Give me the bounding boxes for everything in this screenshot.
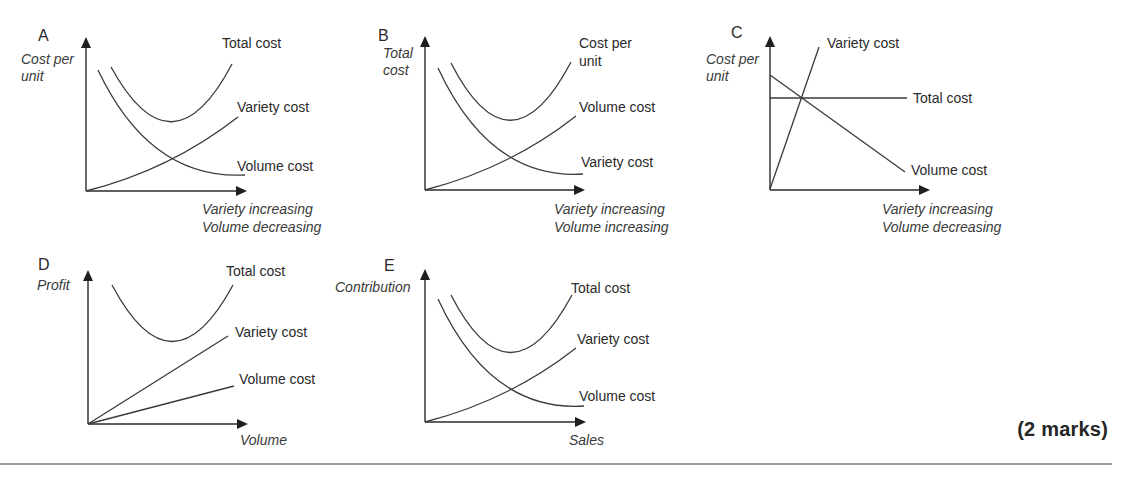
series-label-volume-e: Volume cost: [579, 388, 655, 404]
y-axis-label-c-line2: unit: [706, 68, 730, 84]
y-axis-label-b-line1: Total: [383, 45, 414, 61]
x-axis-label-d: Volume: [240, 432, 287, 448]
series-label-variety-c: Variety cost: [827, 35, 899, 51]
total-cost-curve-e: [451, 295, 572, 353]
x-axis-label-b-line2: Volume increasing: [554, 219, 669, 235]
chart-b: B Total cost Cost per unit Volume cost V…: [378, 27, 669, 235]
variety-cost-curve-e: [425, 348, 576, 422]
x-axis-arrow-icon: [237, 419, 248, 429]
x-axis-arrow-icon: [574, 185, 585, 195]
series-label-variety-a: Variety cost: [237, 99, 309, 115]
x-axis-label-e: Sales: [569, 432, 604, 448]
x-axis-label-a-line2: Volume decreasing: [202, 219, 322, 235]
y-axis-label-a-line2: unit: [21, 68, 45, 84]
volume-cost-line-d: [88, 386, 234, 424]
series-label-falling-b: Variety cost: [581, 154, 653, 170]
series-label-total-a: Total cost: [222, 35, 281, 51]
series-label-volume-a: Volume cost: [237, 158, 313, 174]
chart-a: A Cost per unit Total cost Variety cost …: [21, 27, 322, 235]
x-axis-arrow-icon: [919, 185, 930, 195]
series-label-variety-e: Variety cost: [577, 331, 649, 347]
x-axis-label-b-line1: Variety increasing: [554, 201, 665, 217]
x-axis-arrow-icon: [575, 417, 586, 427]
volume-cost-curve-b: [425, 116, 576, 190]
volume-cost-line-c: [770, 75, 905, 172]
series-label-total-e: Total cost: [571, 280, 630, 296]
y-axis-label-e: Contribution: [335, 279, 411, 295]
x-axis-label-c-line2: Volume decreasing: [882, 219, 1002, 235]
y-axis-arrow-icon: [765, 36, 775, 47]
variety-cost-line-d: [88, 336, 228, 424]
x-axis-label-a-line1: Variety increasing: [202, 201, 313, 217]
x-axis-arrow-icon: [236, 186, 247, 196]
series-label-upper-b-line1: Cost per: [579, 35, 632, 51]
y-axis-arrow-icon: [83, 270, 93, 281]
total-cost-curve-a: [111, 64, 232, 122]
series-label-upper-b-line2: unit: [579, 53, 602, 69]
y-axis-label-d: Profit: [37, 277, 71, 293]
series-label-rising-b: Volume cost: [579, 99, 655, 115]
divider-rule: [0, 463, 1112, 465]
panel-letter-a: A: [38, 27, 49, 44]
x-axis-label-c-line1: Variety increasing: [882, 201, 993, 217]
series-label-volume-d: Volume cost: [239, 371, 315, 387]
y-axis-label-c-line1: Cost per: [706, 51, 760, 67]
panel-letter-d: D: [38, 256, 50, 273]
y-axis-arrow-icon: [81, 37, 91, 48]
series-label-total-c: Total cost: [913, 90, 972, 106]
variety-cost-curve-a: [86, 117, 238, 191]
y-axis-label-a-line1: Cost per: [21, 51, 75, 67]
variety-cost-line-c: [770, 47, 819, 189]
y-axis-arrow-icon: [420, 269, 430, 280]
total-cost-curve-d: [112, 285, 233, 342]
series-label-volume-c: Volume cost: [911, 162, 987, 178]
figure-canvas: A Cost per unit Total cost Variety cost …: [0, 0, 1126, 481]
marks-label: (2 marks): [1017, 418, 1108, 441]
series-label-variety-d: Variety cost: [235, 324, 307, 340]
cost-per-unit-curve-b: [451, 62, 571, 120]
panel-letter-b: B: [378, 27, 389, 44]
panel-letter-c: C: [731, 24, 743, 41]
y-axis-arrow-icon: [420, 36, 430, 47]
chart-d: D Profit Total cost Variety cost Volume …: [37, 256, 315, 448]
panel-letter-e: E: [384, 257, 395, 274]
y-axis-label-b-line2: cost: [383, 62, 410, 78]
series-label-total-d: Total cost: [226, 263, 285, 279]
chart-e: E Contribution Total cost Variety cost V…: [335, 257, 655, 448]
chart-c: C Cost per unit Variety cost Total cost …: [706, 24, 1002, 235]
